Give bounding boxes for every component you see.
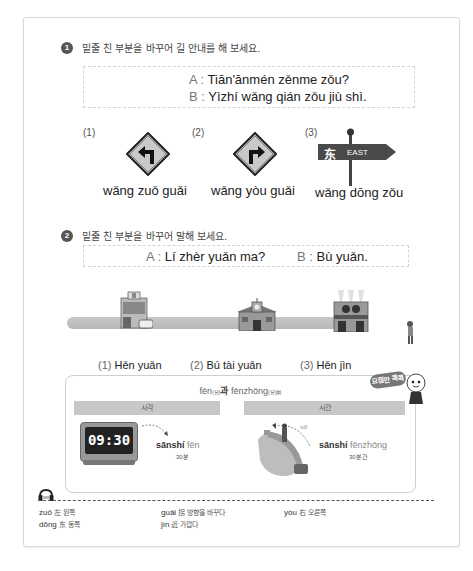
- dialogue-text-b: Bù yuǎn.: [317, 249, 368, 264]
- key-point-title: fēn(分)과 fēnzhōng(分钟): [66, 384, 415, 397]
- exercise-1-heading: 1 밑줄 친 부분을 바꾸어 길 안내를 해 보세요.: [61, 40, 260, 55]
- school-building-icon: [237, 298, 277, 331]
- sign-caption: wǎng dōng zǒu: [315, 185, 403, 200]
- dialogue-line-b: B : Yìzhí wǎng qián zǒu jiù shì.: [189, 88, 367, 105]
- building-caption: (3) Hěn jìn: [300, 359, 351, 371]
- vocab-item: zuǒ 左 왼쪽: [39, 507, 75, 517]
- dialogue-text-a: Tiān'ānmén zěnme zǒu?: [208, 72, 349, 87]
- vocab-item: yòu 右 오른쪽: [284, 507, 326, 517]
- turn-right-sign-icon: [233, 132, 277, 176]
- exercise-2-instruction: 밑줄 친 부분을 바꾸어 말해 보세요.: [82, 228, 227, 243]
- dialogue-line-a: A : Tiān'ānmén zěnme zǒu?: [189, 71, 349, 88]
- person-icon: [406, 321, 414, 345]
- time-point-meaning: 30분: [176, 452, 189, 461]
- duration-meaning: 30분간: [349, 452, 368, 461]
- exercise-2-dialogue-box: A : Lí zhèr yuǎn ma? B : Bù yuǎn.: [83, 245, 409, 267]
- dialogue-text-a: Lí zhèr yuǎn ma?: [165, 249, 265, 264]
- item-number: (1): [83, 127, 95, 138]
- digital-clock-icon: 09:30: [80, 422, 138, 466]
- item-number: (2): [192, 127, 204, 138]
- dotted-arrow-icon: [140, 422, 170, 438]
- exercise-2-heading: 2 밑줄 친 부분을 바꾸어 말해 보세요.: [61, 228, 227, 243]
- clock-display: 09:30: [85, 427, 133, 454]
- headphones-icon: [38, 487, 54, 499]
- sign-text: EAST: [347, 148, 368, 157]
- column-header-time-point: 시각: [74, 401, 220, 415]
- building-caption: (2) Bú tài yuǎn: [190, 359, 262, 371]
- duration-note: 30분: [300, 424, 308, 430]
- duration-pinyin: sānshí fēnzhōng: [319, 440, 387, 450]
- time-point-pinyin: sānshí fēn: [156, 440, 200, 450]
- exercise-1-instruction: 밑줄 친 부분을 바꾸어 길 안내를 해 보세요.: [82, 40, 260, 55]
- dialogue-line-b: B : Bù yuǎn.: [297, 248, 368, 265]
- exercise-number-badge: 1: [61, 42, 73, 54]
- east-signpost-icon: 东 EAST: [316, 126, 398, 186]
- sign-caption: wǎng zuǒ guǎi: [103, 183, 187, 198]
- sign-hanzi: 东: [324, 145, 336, 162]
- road-ground: [67, 317, 359, 329]
- dialogue-text-b: Yìzhí wǎng qián zǒu jiù shì.: [208, 89, 366, 104]
- dialogue-line-a: A : Lí zhèr yuǎn ma?: [146, 248, 265, 265]
- key-point-box: fēn(分)과 fēnzhōng(分钟) 시각 시간 09:30 sānshí …: [65, 375, 416, 493]
- exercise-number-badge: 2: [61, 230, 73, 242]
- vocab-item: dōng 东 동쪽: [39, 519, 80, 529]
- textbook-page: 1 밑줄 친 부분을 바꾸어 길 안내를 해 보세요. A : Tiān'ānm…: [23, 17, 460, 547]
- walking-path-illustration: 30분: [254, 420, 320, 480]
- hospital-building-icon: [119, 290, 153, 330]
- vocab-item: jìn 近 가깝다: [161, 519, 198, 529]
- vocabulary-divider: [38, 500, 434, 501]
- turn-left-sign-icon: [126, 132, 170, 176]
- cinema-building-icon: [332, 290, 370, 332]
- sign-caption: wǎng yòu guǎi: [211, 183, 295, 198]
- column-header-duration: 시간: [244, 401, 405, 415]
- building-caption: (1) Hěn yuǎn: [98, 359, 162, 371]
- vocab-item: guǎi 拐 방향을 바꾸다: [161, 507, 225, 517]
- exercise-1-dialogue-box: A : Tiān'ānmén zěnme zǒu? B : Yìzhí wǎng…: [83, 66, 415, 108]
- mascot-icon: [404, 373, 428, 405]
